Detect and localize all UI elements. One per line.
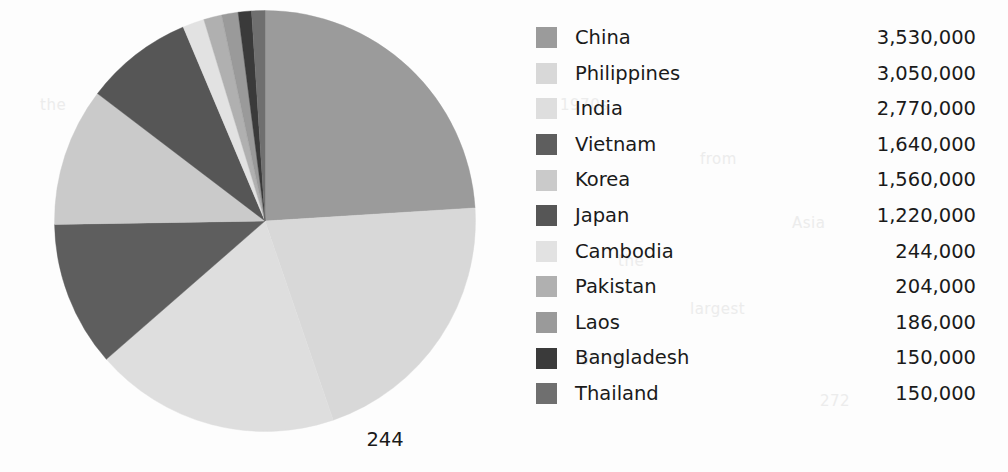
legend-row: Bangladesh150,000: [536, 340, 976, 376]
legend-row: Laos186,000: [536, 305, 976, 341]
legend-label: Philippines: [575, 64, 826, 84]
legend-swatch-laos: [536, 312, 557, 333]
legend-label: Vietnam: [575, 135, 826, 155]
legend-label: Pakistan: [575, 277, 826, 297]
legend-value: 204,000: [826, 277, 976, 297]
legend-label: Cambodia: [575, 242, 826, 262]
pie-chart: [54, 10, 476, 432]
legend-value: 150,000: [826, 348, 976, 368]
legend-row: Korea1,560,000: [536, 162, 976, 198]
pie-slice-china: [265, 11, 475, 222]
legend-swatch-korea: [536, 170, 557, 191]
legend-value: 3,530,000: [826, 28, 976, 48]
document-page: theimmigrantswerein1970sfromAsiathelarge…: [0, 0, 1008, 472]
page-number: 244: [340, 428, 430, 451]
pie-slice-group: [55, 10, 476, 431]
legend-label: Thailand: [575, 384, 826, 404]
chart-legend: China3,530,000Philippines3,050,000India2…: [536, 20, 976, 412]
legend-value: 1,640,000: [826, 135, 976, 155]
legend-swatch-thailand: [536, 383, 557, 404]
legend-swatch-japan: [536, 205, 557, 226]
legend-row: Vietnam1,640,000: [536, 127, 976, 163]
legend-value: 186,000: [826, 313, 976, 333]
legend-value: 150,000: [826, 384, 976, 404]
legend-row: Japan1,220,000: [536, 198, 976, 234]
legend-label: China: [575, 28, 826, 48]
legend-swatch-cambodia: [536, 241, 557, 262]
legend-value: 2,770,000: [826, 99, 976, 119]
legend-value: 1,220,000: [826, 206, 976, 226]
legend-value: 244,000: [826, 242, 976, 262]
legend-row: Philippines3,050,000: [536, 56, 976, 92]
legend-row: Cambodia244,000: [536, 234, 976, 270]
legend-swatch-pakistan: [536, 276, 557, 297]
legend-row: China3,530,000: [536, 20, 976, 56]
legend-swatch-philippines: [536, 63, 557, 84]
pie-chart-svg: [54, 10, 476, 432]
legend-label: Bangladesh: [575, 348, 826, 368]
legend-label: Laos: [575, 313, 826, 333]
legend-label: Japan: [575, 206, 826, 226]
legend-row: India2,770,000: [536, 91, 976, 127]
legend-value: 1,560,000: [826, 170, 976, 190]
legend-swatch-china: [536, 27, 557, 48]
legend-row: Thailand150,000: [536, 376, 976, 412]
legend-label: India: [575, 99, 826, 119]
legend-row: Pakistan204,000: [536, 269, 976, 305]
legend-value: 3,050,000: [826, 64, 976, 84]
legend-swatch-india: [536, 98, 557, 119]
legend-label: Korea: [575, 170, 826, 190]
legend-swatch-bangladesh: [536, 348, 557, 369]
legend-swatch-vietnam: [536, 134, 557, 155]
